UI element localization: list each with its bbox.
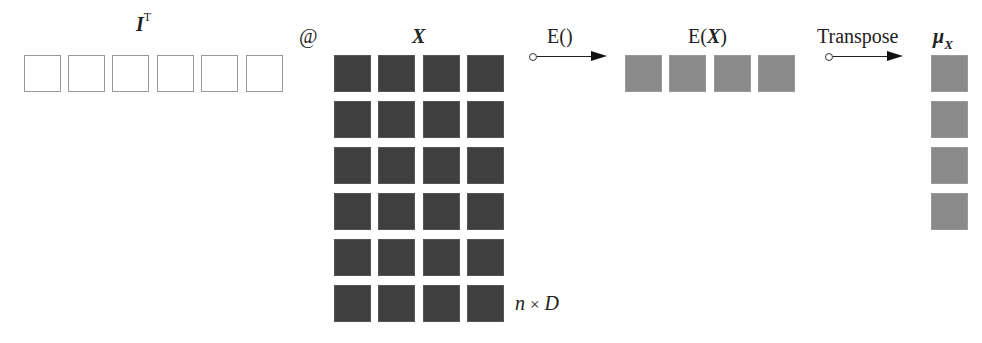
matrix-x-cell: [334, 101, 371, 138]
matrix-x-cell: [423, 239, 460, 276]
matrix-x-cell: [378, 285, 415, 322]
matrix-x-cell: [467, 285, 504, 322]
matrix-x-cell: [467, 55, 504, 92]
matrix-x-cell: [423, 55, 460, 92]
ones-vector-cell: [201, 55, 238, 92]
expectation-result-cell: [758, 55, 795, 92]
transpose-arrow-label: Transpose: [817, 26, 899, 46]
ones-vector-label: IT: [136, 9, 151, 34]
expectation-arrow: [529, 51, 607, 63]
matrix-x-cell: [334, 147, 371, 184]
mean-vector-label: μX: [933, 26, 953, 54]
ones-vector-cell: [157, 55, 194, 92]
matrix-x-label: X: [412, 26, 425, 46]
matrix-x-cell: [334, 193, 371, 230]
matrix-x-cell: [467, 239, 504, 276]
matrix-x-cell: [467, 101, 504, 138]
mean-vector-cell: [931, 193, 968, 230]
matrix-x-cell: [334, 55, 371, 92]
expectation-result-cell: [669, 55, 706, 92]
matrix-dimension-label: n × D: [515, 293, 559, 315]
mean-vector-cell: [931, 147, 968, 184]
ones-vector-cell: [68, 55, 105, 92]
expectation-result-cell: [714, 55, 751, 92]
matrix-x-cell: [378, 55, 415, 92]
arrow-line: [833, 56, 891, 57]
transpose-arrow: [825, 51, 903, 63]
matrix-x-cell: [334, 239, 371, 276]
matrix-x-cell: [467, 147, 504, 184]
arrow-origin-icon: [825, 53, 833, 61]
arrowhead-icon: [591, 51, 607, 61]
ones-vector-cell: [246, 55, 283, 92]
expectation-arrow-label: E(): [547, 26, 573, 46]
expectation-result-cell: [625, 55, 662, 92]
ones-symbol: I: [136, 13, 144, 35]
matrix-x-cell: [423, 285, 460, 322]
matrix-x-cell: [378, 101, 415, 138]
matrix-x-cell: [378, 239, 415, 276]
arrow-origin-icon: [529, 53, 537, 61]
matrix-x-cell: [423, 193, 460, 230]
matrix-x-cell: [423, 101, 460, 138]
matrix-x-cell: [378, 147, 415, 184]
matrix-x-cell: [334, 285, 371, 322]
matrix-x-cell: [467, 193, 504, 230]
ones-vector-cell: [24, 55, 61, 92]
ones-vector-cell: [112, 55, 149, 92]
expectation-result-label: E(X): [688, 26, 727, 46]
mean-vector-cell: [931, 101, 968, 138]
matrix-x-cell: [423, 147, 460, 184]
arrowhead-icon: [887, 51, 903, 61]
matrix-x-cell: [378, 193, 415, 230]
mean-vector-cell: [931, 55, 968, 92]
arrow-line: [537, 56, 595, 57]
matmul-operator: @: [299, 26, 317, 46]
transpose-superscript: T: [144, 10, 151, 24]
